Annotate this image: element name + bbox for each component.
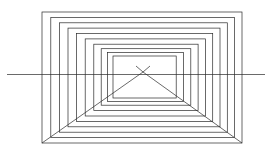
perspective-drawing (0, 0, 272, 160)
perspective-figure-svg (0, 0, 272, 160)
canvas-background (0, 0, 272, 160)
